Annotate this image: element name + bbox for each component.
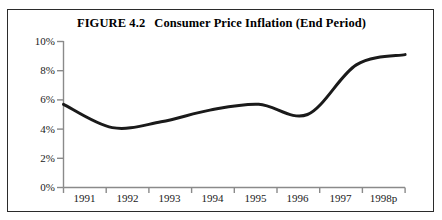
inflation-curve [64,55,406,129]
inflation-line-chart [8,10,435,213]
y-axis-ticks [57,42,64,188]
x-axis-ticks [64,188,406,194]
figure-frame: FIGURE 4.2Consumer Price Inflation (End … [7,9,434,212]
